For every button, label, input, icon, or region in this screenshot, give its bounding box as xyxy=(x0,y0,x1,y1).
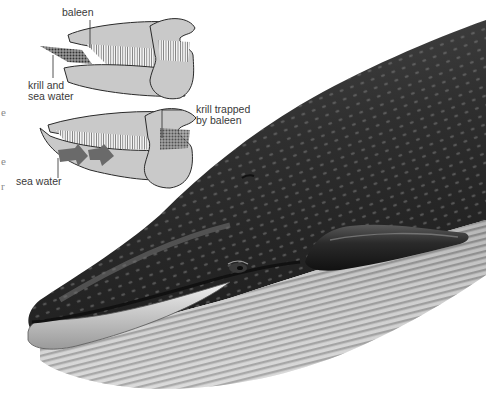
diagram-bottom-jaw xyxy=(40,109,196,188)
krill-arrow xyxy=(40,46,92,64)
edge-fragment: e xyxy=(1,106,6,118)
label-sea-water: sea water xyxy=(16,176,62,187)
label-krill-line2: sea water xyxy=(28,91,74,102)
label-baleen: baleen xyxy=(62,7,94,18)
label-trapped-line2: by baleen xyxy=(196,115,242,126)
figure-canvas: baleen krill and sea water krill trapped… xyxy=(0,0,486,405)
edge-fragment: r xyxy=(1,180,5,192)
edge-fragment: e xyxy=(1,155,6,167)
whale-illustration xyxy=(0,0,486,405)
